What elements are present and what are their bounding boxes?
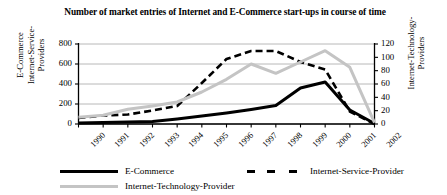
chart-legend: E-Commerce Internet-Service-Provider Int… [0,164,447,195]
legend-item-ecommerce: E-Commerce [60,166,174,177]
legend-item-isp: Internet-Service-Provider [245,166,404,177]
legend-label-itp: Internet-Technology-Provider [125,181,235,192]
data-series [79,51,375,124]
legend-label-ecommerce: E-Commerce [125,166,174,177]
legend-item-itp: Internet-Technology-Provider [60,181,235,192]
legend-swatch-ecommerce [60,166,118,177]
chart-container: Number of market entries of Internet and… [0,0,447,195]
series-e-commerce [79,82,375,124]
legend-swatch-isp [245,166,303,177]
legend-swatch-itp [60,181,118,192]
legend-label-isp: Internet-Service-Provider [310,166,404,177]
